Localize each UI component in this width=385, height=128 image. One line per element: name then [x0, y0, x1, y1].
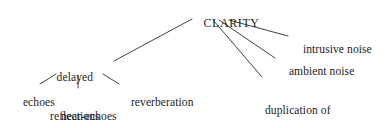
node-reverberation-label: reverberation [131, 96, 194, 108]
clarity-tree-diagram: CLARITY delayed reflections echoes near-… [0, 0, 385, 128]
node-intrusive-noise[interactable]: intrusive noise [291, 30, 372, 68]
node-clarity[interactable]: CLARITY [189, 4, 260, 42]
node-near-echoes-label: near-echoes [61, 110, 117, 122]
node-intrusive-noise-label: intrusive noise [303, 43, 372, 55]
edge-reflections-to-reverberation [103, 74, 119, 84]
edge-clarity-to-delayed-reflections [114, 19, 192, 61]
node-delayed-reflections-line1: delayed [50, 71, 100, 84]
node-reverberation[interactable]: reverberation [119, 83, 194, 121]
node-clarity-label: CLARITY [203, 16, 259, 30]
node-duplication-line1: duplication of [265, 104, 341, 117]
node-near-echoes[interactable]: near-echoes [49, 97, 117, 128]
